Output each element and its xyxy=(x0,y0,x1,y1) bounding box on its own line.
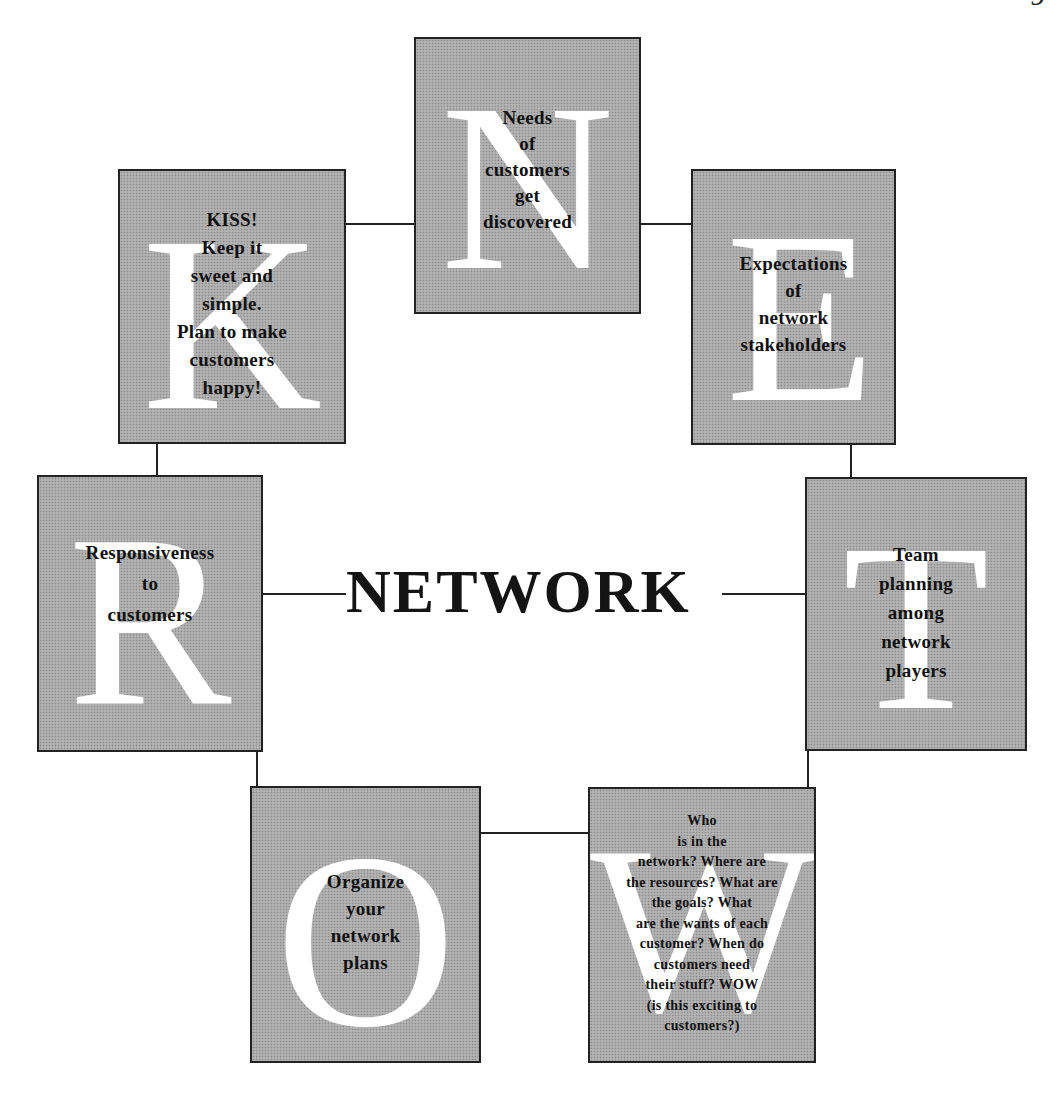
connector-r-k xyxy=(156,442,158,476)
center-title: NETWORK xyxy=(346,560,691,622)
box-k-kiss: K KISS! Keep it sweet and simple. Plan t… xyxy=(118,169,346,444)
connector-n-e xyxy=(640,223,692,225)
box-w-who: W Who is in the network? Where are the r… xyxy=(588,787,816,1063)
connector-k-n xyxy=(345,223,415,225)
box-r-text: Responsiveness to customers xyxy=(39,537,261,630)
page-number: 9 xyxy=(1030,0,1045,12)
box-t-text: Team planning among network players xyxy=(807,540,1025,685)
box-r-responsiveness: R Responsiveness to customers xyxy=(37,475,263,752)
box-e-text: Expectations of network stakeholders xyxy=(693,250,894,358)
box-n-text: Needs of customers get discovered xyxy=(416,105,639,235)
box-w-text: Who is in the network? Where are the res… xyxy=(590,811,814,1037)
box-o-organize: O Organize your network plans xyxy=(250,786,481,1063)
connector-e-t xyxy=(850,444,852,478)
box-k-text: KISS! Keep it sweet and simple. Plan to … xyxy=(120,206,344,402)
box-n-needs: N Needs of customers get discovered xyxy=(414,37,641,314)
box-t-team-planning: T Team planning among network players xyxy=(805,477,1027,751)
box-o-text: Organize your network plans xyxy=(252,868,479,976)
connector-t-w xyxy=(807,750,809,788)
connector-r-center xyxy=(262,593,346,595)
connector-w-o xyxy=(479,832,589,834)
box-e-expectations: E Expectations of network stakeholders xyxy=(691,169,896,445)
connector-o-r xyxy=(256,750,258,788)
connector-center-t xyxy=(722,593,806,595)
